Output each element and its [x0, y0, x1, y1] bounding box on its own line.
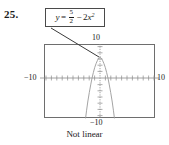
equation-lhs: y — [55, 13, 59, 22]
graph-caption: Not linear — [0, 130, 169, 139]
equation-exponent: 2 — [92, 12, 95, 18]
fraction-denominator: 2 — [69, 18, 75, 25]
axis-label-top: 10 — [92, 34, 100, 42]
equation-minus-sign: − — [77, 13, 82, 22]
equation-equals-sign: = — [61, 13, 66, 22]
equation-callout-box: y = 5 2 − 2 x 2 — [45, 8, 105, 27]
equation-fraction: 5 2 — [69, 9, 75, 25]
axis-label-right: 10 — [157, 74, 165, 82]
axis-label-bottom: −10 — [90, 119, 103, 127]
equation-expression: y = 5 2 − 2 x 2 — [55, 10, 94, 26]
graph-plot — [44, 44, 155, 118]
problem-number: 25. — [4, 9, 18, 20]
fraction-numerator: 5 — [69, 9, 75, 16]
axis-label-left: −10 — [24, 74, 37, 82]
graph-panel — [44, 44, 155, 118]
